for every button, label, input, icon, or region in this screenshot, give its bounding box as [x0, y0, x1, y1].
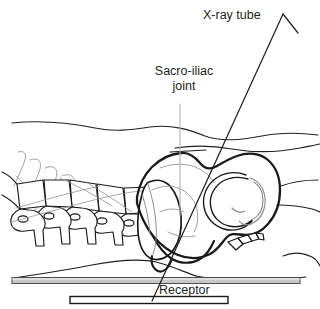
label-sacroiliac-line2: joint	[145, 79, 223, 94]
anatomy-diagram-svg	[0, 0, 320, 309]
label-sacroiliac-joint: Sacro-iliacjoint	[145, 64, 223, 94]
label-xray-tube: X-ray tube	[203, 8, 261, 23]
label-sacroiliac-line1: Sacro-iliac	[155, 64, 213, 78]
label-receptor: Receptor	[159, 283, 210, 298]
radiographic-projection-figure: X-ray tube Sacro-iliacjoint Receptor	[0, 0, 320, 309]
table-top	[12, 278, 300, 284]
patient-table	[12, 278, 300, 284]
